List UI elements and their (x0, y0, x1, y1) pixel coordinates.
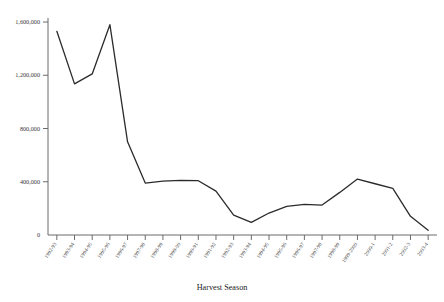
x-tick-label: 1996-97 (290, 241, 305, 259)
x-tick-label: 1991-92 (202, 241, 217, 259)
y-tick-label: 800,000 (20, 125, 40, 132)
x-tick-label: 1999-00 (167, 241, 182, 259)
x-tick-label: 1995-96 (96, 241, 111, 259)
x-tick-label: 1994-95 (255, 241, 270, 259)
chart-canvas: 0400,000800,0001,200,0001,600,000 1992-9… (0, 0, 444, 302)
x-tick-label: 1993-94 (61, 241, 76, 259)
x-tick-label: 2000-1 (363, 241, 377, 257)
y-tick-label: 1,600,000 (15, 18, 40, 25)
y-tick-label: 1,200,000 (15, 71, 40, 78)
x-tick-label: 1990-91 (184, 241, 199, 259)
x-tick-label: 1996-97 (114, 241, 129, 259)
y-tick-group: 0400,000800,0001,200,0001,600,000 (15, 18, 48, 238)
x-axis: 1992-931993-941994-951995-961996-971997-… (43, 235, 437, 264)
x-tick-label: 1992-93 (43, 241, 58, 259)
x-tick-label: 1999-2000 (340, 241, 358, 264)
x-tick-label: 1994-95 (78, 241, 93, 259)
data-series-line (57, 25, 428, 231)
x-tick-label: 2003-4 (416, 241, 430, 257)
x-tick-label: 1992-93 (220, 241, 235, 259)
y-axis: 0400,000800,0001,200,0001,600,000 (15, 18, 48, 238)
x-tick-group: 1992-931993-941994-951995-961996-971997-… (43, 235, 429, 264)
x-tick-label: 1998-99 (149, 241, 164, 259)
x-tick-label: 2001-2 (380, 241, 394, 257)
x-tick-label: 1997-98 (308, 241, 323, 259)
x-axis-title: Harvest Season (197, 283, 248, 292)
x-tick-label: 1998-99 (326, 241, 341, 259)
x-tick-label: 1993-94 (237, 241, 252, 259)
x-tick-label: 1997-98 (131, 241, 146, 259)
x-tick-label: 1995-96 (273, 241, 288, 259)
line-chart: 0400,000800,0001,200,0001,600,000 1992-9… (0, 0, 444, 302)
x-tick-label: 2002-3 (398, 241, 412, 257)
series-group (57, 25, 428, 231)
y-tick-label: 0 (37, 231, 40, 238)
y-tick-label: 400,000 (20, 178, 40, 185)
